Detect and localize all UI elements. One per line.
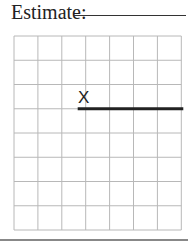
start-marker-x: X xyxy=(78,89,89,107)
grid-paper xyxy=(0,0,188,241)
